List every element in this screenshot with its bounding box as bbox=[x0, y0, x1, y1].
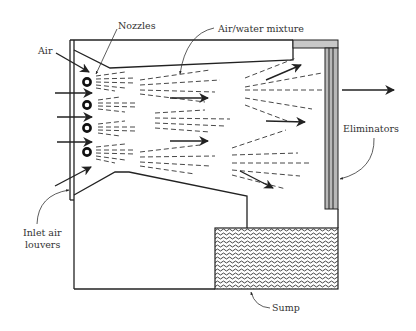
nozzle-icon bbox=[83, 78, 90, 85]
top-baffle bbox=[74, 40, 293, 68]
nozzle-icon bbox=[83, 148, 90, 155]
louvers-leader bbox=[37, 190, 69, 224]
flow-arrow-icon bbox=[266, 121, 305, 122]
inlet-air-louvers-label-line2: louvers bbox=[25, 239, 60, 250]
sump-water bbox=[215, 228, 338, 289]
nozzles-label: Nozzles bbox=[118, 20, 156, 31]
mixture-leader bbox=[180, 28, 214, 74]
air-inlet-arrow-icon bbox=[56, 53, 89, 72]
eliminators bbox=[325, 48, 338, 209]
air-washer-diagram: Nozzles Air/water mixture Air Eliminator… bbox=[0, 0, 416, 331]
sump-leader bbox=[251, 292, 270, 308]
eliminators-label: Eliminators bbox=[343, 123, 399, 134]
air-flow-arrows bbox=[55, 53, 394, 188]
lower-baffle bbox=[74, 172, 247, 228]
sump-label: Sump bbox=[272, 302, 300, 313]
spray-pattern bbox=[96, 58, 325, 189]
nozzle-icon bbox=[83, 101, 90, 108]
inlet-air-louvers-label-line1: Inlet air bbox=[23, 227, 62, 238]
air-water-mixture-label: Air/water mixture bbox=[217, 23, 304, 34]
eliminator-cap bbox=[293, 40, 338, 48]
nozzle-icon bbox=[83, 124, 90, 131]
air-inlet-arrow-icon bbox=[55, 167, 91, 186]
air-label: Air bbox=[37, 45, 53, 56]
eliminators-leader bbox=[340, 138, 374, 179]
